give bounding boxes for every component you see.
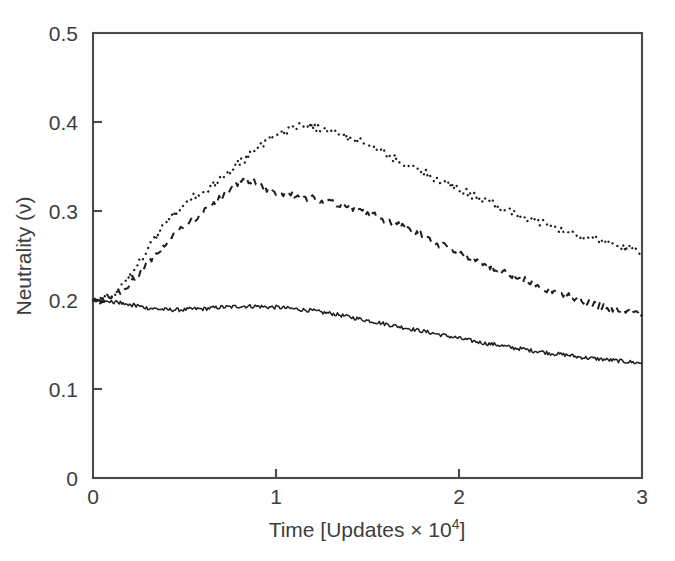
- x-axis-ticks: [276, 469, 459, 478]
- svg-text:Neutrality (ν): Neutrality (ν): [12, 196, 35, 315]
- y-tick-label: 0: [66, 467, 78, 490]
- x-axis-tick-labels: 0123: [87, 485, 648, 508]
- x-title-exponent: 4: [452, 516, 460, 532]
- data-series-group: [93, 122, 642, 363]
- y-tick-label: 0.5: [49, 22, 78, 45]
- figure-container: 00.10.20.30.40.5 0123 Time [Updates × 10…: [0, 0, 675, 561]
- y-tick-label: 0.4: [49, 111, 79, 134]
- y-tick-label: 0.2: [49, 289, 78, 312]
- y-tick-label: 0.1: [49, 378, 78, 401]
- series-solid-lower: [93, 299, 642, 363]
- y-axis-tick-labels: 00.10.20.30.40.5: [49, 22, 79, 490]
- x-title-tail: ]: [460, 518, 466, 541]
- x-title-main: Time [Updates × 10: [269, 518, 452, 541]
- x-tick-label: 2: [453, 485, 465, 508]
- x-tick-label: 3: [636, 485, 648, 508]
- y-axis-title: Neutrality (ν): [12, 196, 35, 315]
- y-tick-label: 0.3: [49, 200, 78, 223]
- y-axis-ticks: [93, 122, 102, 389]
- x-tick-label: 1: [270, 485, 282, 508]
- x-tick-label: 0: [87, 485, 99, 508]
- series-dashed-middle: [93, 178, 642, 318]
- svg-text:Time [Updates × 104]: Time [Updates × 104]: [269, 516, 466, 541]
- x-axis-title: Time [Updates × 104]: [269, 516, 466, 541]
- chart-canvas: 00.10.20.30.40.5 0123 Time [Updates × 10…: [0, 0, 675, 561]
- plot-frame: [93, 33, 642, 478]
